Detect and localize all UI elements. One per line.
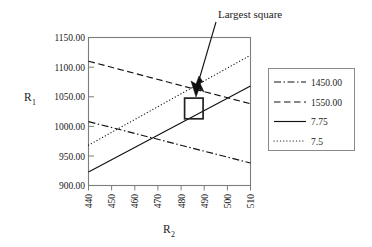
y-tick-label: 1050.00 [54, 92, 85, 102]
y-axis-ticks [89, 38, 95, 186]
y-tick-label: 1150.00 [54, 33, 85, 43]
x-tick-label: 440 [84, 194, 94, 209]
series-line-7-75 [89, 86, 251, 172]
legend-label-7-5: 7.5 [311, 137, 323, 147]
plot-area-frame [89, 38, 251, 186]
x-tick-label: 490 [200, 194, 210, 209]
x-axis-tick-labels: 440 450 460 470 480 490 500 510 [84, 194, 256, 209]
y-axis-title-subscript: 1 [32, 98, 36, 107]
chart-canvas: 1150.00 1100.00 1050.00 1000.00 950.00 9… [0, 0, 372, 247]
x-tick-label: 500 [223, 194, 233, 209]
x-tick-label: 450 [107, 194, 117, 209]
legend-label-1450: 1450.00 [311, 78, 342, 88]
y-axis-title-base: R [24, 91, 32, 103]
data-series-group [89, 55, 251, 172]
y-axis-title: R 1 [24, 91, 36, 107]
annotation-arrow-head [191, 76, 204, 97]
chart-figure: 1150.00 1100.00 1050.00 1000.00 950.00 9… [0, 0, 372, 247]
y-tick-label: 1000.00 [54, 122, 85, 132]
y-axis-tick-labels: 1150.00 1100.00 1050.00 1000.00 950.00 9… [54, 33, 85, 191]
legend-label-1550: 1550.00 [311, 98, 342, 108]
y-tick-label: 1100.00 [54, 63, 85, 73]
series-line-1450 [89, 122, 251, 163]
series-line-7-5 [89, 55, 251, 145]
x-axis-ticks [89, 186, 251, 191]
x-tick-label: 470 [153, 194, 163, 209]
x-axis-title-subscript: 2 [171, 230, 175, 239]
legend-label-7-75: 7.75 [311, 117, 328, 127]
x-tick-label: 480 [177, 194, 187, 209]
annotation-label: Largest square [218, 8, 282, 20]
x-axis-title: R 2 [163, 223, 175, 239]
x-tick-label: 460 [130, 194, 140, 209]
y-tick-label: 950.00 [59, 152, 85, 162]
y-tick-label: 900.00 [59, 181, 85, 191]
chart-legend: 1450.00 1550.00 7.75 7.5 [269, 69, 355, 151]
series-line-1550 [89, 61, 251, 104]
x-axis-title-base: R [163, 223, 171, 235]
x-tick-label: 510 [246, 194, 256, 209]
